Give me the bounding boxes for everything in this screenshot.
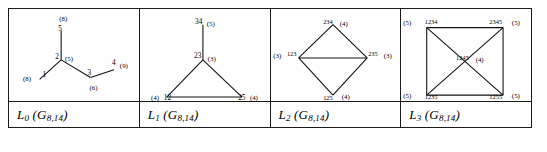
graph-panel-l0: 1(8)2(5)3(6)4(9)5(8) <box>9 9 139 101</box>
caption-arg-open: (G <box>33 107 47 122</box>
figure-cell-l3: 1234(5)2345(5)1235(5)1255(5)1245(4)L3 (G… <box>401 9 531 127</box>
graph-nodes: 1234(5)2345(5)1235(5)1255(5)1245(4) <box>403 18 520 100</box>
node-degree-label: (5) <box>65 55 73 63</box>
node-label: 1234 <box>425 18 439 25</box>
node-label: 125 <box>323 94 333 101</box>
node-degree-label: (4) <box>339 20 347 28</box>
graph-edge <box>166 60 202 97</box>
figure-cell-l1: 34(5)23(3)12(4)25(4)L1 (G8,14) <box>140 9 271 127</box>
panel-caption-l2: L2 (G8,14) <box>279 107 330 123</box>
graph-panel-l2: 234(4)123(3)235(3)125(4) <box>271 9 401 101</box>
caption-row-l3: L3 (G8,14) <box>401 101 531 127</box>
node-label: 4 <box>112 58 116 67</box>
node-degree-label: (4) <box>151 94 159 101</box>
panel-caption-l1: L1 (G8,14) <box>148 107 199 123</box>
graph-drawing-l2: 234(4)123(3)235(3)125(4) <box>271 9 401 101</box>
caption-operator-index: 1 <box>155 113 160 123</box>
node-label: 1 <box>43 70 47 79</box>
node-degree-label: (3) <box>208 55 216 63</box>
graph-panel-l3: 1234(5)2345(5)1235(5)1255(5)1245(4) <box>401 9 531 101</box>
node-degree-label: (3) <box>383 52 391 60</box>
node-degree-label: (4) <box>341 93 349 101</box>
graph-edges <box>427 28 503 96</box>
graph-nodes: 234(4)123(3)235(3)125(4) <box>273 18 392 101</box>
caption-operator-index: 0 <box>24 113 29 123</box>
node-label: 2 <box>55 52 59 61</box>
graph-edges <box>166 25 241 97</box>
node-degree-label: (5) <box>512 92 520 100</box>
node-label: 25 <box>238 93 246 101</box>
node-degree-label: (4) <box>476 56 484 64</box>
caption-row-l2: L2 (G8,14) <box>271 101 401 127</box>
figure-cell-l0: 1(8)2(5)3(6)4(9)5(8)L0 (G8,14) <box>9 9 140 127</box>
node-degree-label: (5) <box>403 92 411 100</box>
caption-operator: L <box>409 107 416 122</box>
node-degree-label: (4) <box>250 94 258 101</box>
graph-edge <box>298 25 332 58</box>
node-degree-label: (9) <box>120 62 128 70</box>
graph-panel-l1: 34(5)23(3)12(4)25(4) <box>140 9 270 101</box>
panel-caption-l0: L0 (G8,14) <box>17 107 68 123</box>
graph-nodes: 1(8)2(5)3(6)4(9)5(8) <box>23 15 128 92</box>
node-label: 1235 <box>425 93 438 100</box>
node-label: 1255 <box>490 93 503 100</box>
caption-arg-close: ) <box>63 107 68 122</box>
node-degree-label: (5) <box>512 19 520 27</box>
node-degree-label: (8) <box>59 15 67 23</box>
graph-edge <box>203 60 242 97</box>
node-label: 34 <box>195 17 203 26</box>
node-label: 23 <box>194 51 202 60</box>
graph-nodes: 34(5)23(3)12(4)25(4) <box>151 17 258 101</box>
caption-operator: L <box>279 107 286 122</box>
node-label: 2345 <box>490 18 503 25</box>
panel-caption-l3: L3 (G8,14) <box>409 107 460 123</box>
graph-edge <box>61 60 90 78</box>
node-label: 5 <box>58 24 62 33</box>
graph-edge <box>332 25 366 58</box>
graph-edge <box>91 70 114 78</box>
graph-drawing-l3: 1234(5)2345(5)1235(5)1255(5)1245(4) <box>401 9 531 101</box>
node-degree-label: (3) <box>273 52 281 60</box>
caption-arg-subscript: 8,14 <box>439 113 456 123</box>
node-degree-label: (8) <box>23 75 31 83</box>
node-degree-label: (6) <box>90 84 98 92</box>
caption-operator-index: 3 <box>417 113 422 123</box>
graph-edges <box>298 25 367 95</box>
graph-drawing-l0: 1(8)2(5)3(6)4(9)5(8) <box>9 9 139 101</box>
caption-operator-index: 2 <box>286 113 291 123</box>
node-degree-label: (5) <box>403 19 411 27</box>
node-label: 234 <box>323 18 333 25</box>
node-label: 1245 <box>456 54 469 61</box>
line-graph-figure-table: 1(8)2(5)3(6)4(9)5(8)L0 (G8,14)34(5)23(3)… <box>8 8 532 128</box>
caption-arg-subscript: 8,14 <box>308 113 325 123</box>
caption-arg-close: ) <box>325 107 330 122</box>
caption-arg-close: ) <box>456 107 461 122</box>
figure-cell-l2: 234(4)123(3)235(3)125(4)L2 (G8,14) <box>271 9 402 127</box>
graph-edge <box>332 58 366 95</box>
caption-row-l0: L0 (G8,14) <box>9 101 139 127</box>
node-degree-label: (5) <box>207 20 215 28</box>
caption-arg-open: (G <box>163 107 177 122</box>
node-label: 123 <box>286 50 296 57</box>
caption-arg-subscript: 8,14 <box>47 113 64 123</box>
caption-arg-close: ) <box>194 107 199 122</box>
caption-arg-open: (G <box>425 107 439 122</box>
caption-row-l1: L1 (G8,14) <box>140 101 270 127</box>
caption-arg-subscript: 8,14 <box>177 113 194 123</box>
node-label: 3 <box>88 68 92 77</box>
node-label: 12 <box>164 93 172 101</box>
graph-edge <box>298 58 332 95</box>
graph-drawing-l1: 34(5)23(3)12(4)25(4) <box>140 9 270 101</box>
node-label: 235 <box>368 50 378 57</box>
caption-arg-open: (G <box>294 107 308 122</box>
graph-edges <box>40 31 114 80</box>
